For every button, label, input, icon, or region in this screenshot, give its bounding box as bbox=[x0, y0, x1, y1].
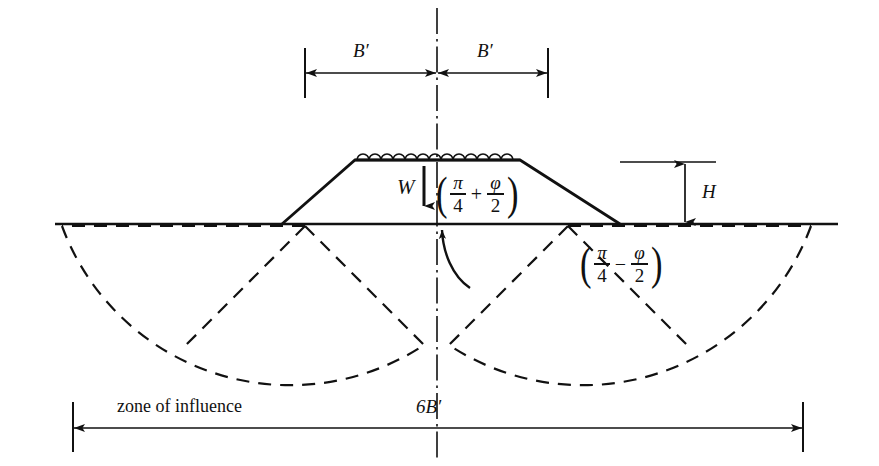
dimension-label-b-prime-right: B′ bbox=[477, 40, 493, 62]
close-paren-icon: ) bbox=[651, 245, 662, 283]
zone-of-influence-label: zone of influence bbox=[117, 396, 242, 417]
left-failure-wedge bbox=[62, 226, 424, 385]
total-width-dimension-label: 6B′ bbox=[416, 396, 441, 418]
passive-wedge-formula: ( π 4 − φ 2 ) bbox=[578, 243, 664, 285]
figure-canvas: B′ B′ W H ( π 4 + φ 2 ) ( π 4 − φ 2 bbox=[0, 0, 879, 466]
fraction-pi-over-four: π 4 bbox=[450, 173, 466, 215]
fraction-pi-over-four: π 4 bbox=[594, 243, 610, 285]
minus-operator: − bbox=[611, 253, 630, 276]
fraction-phi-over-two: φ 2 bbox=[631, 243, 648, 285]
height-dimension-label: H bbox=[702, 181, 716, 203]
top-dimension-group bbox=[305, 48, 548, 98]
fraction-phi-over-two: φ 2 bbox=[487, 173, 504, 215]
active-wedge-formula: ( π 4 + φ 2 ) bbox=[434, 173, 520, 215]
plus-operator: + bbox=[467, 183, 486, 206]
angle-leader-arrow bbox=[442, 230, 470, 288]
load-weight-label: W bbox=[397, 175, 415, 200]
dimension-label-b-prime-left: B′ bbox=[353, 40, 369, 62]
close-paren-icon: ) bbox=[507, 175, 518, 213]
open-paren-icon: ( bbox=[580, 245, 591, 283]
open-paren-icon: ( bbox=[436, 175, 447, 213]
